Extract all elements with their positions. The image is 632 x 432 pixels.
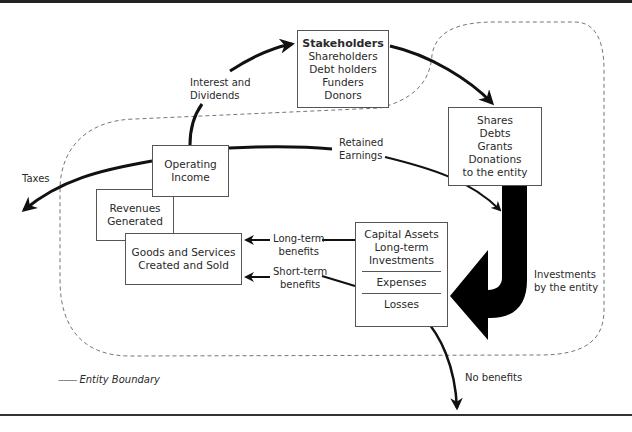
interest-arrow-lower [190, 104, 202, 145]
investments-label: Investments by the entity [534, 268, 598, 294]
inflow-item: Donations [449, 153, 541, 166]
inflow-item: Shares [449, 114, 541, 127]
interest-label: Interest and Dividends [190, 76, 251, 102]
losses-label: Losses [356, 298, 447, 311]
capital-assets-box: Capital Assets Long-term Investments Exp… [355, 222, 448, 327]
retained-line: Earnings [339, 149, 383, 162]
stakeholder-item: Shareholders [298, 50, 388, 63]
capital-line: Investments [356, 254, 447, 267]
goods-services-box: Goods and Services Created and Sold [125, 233, 242, 285]
divider [362, 271, 441, 272]
goods-line: Created and Sold [126, 259, 241, 272]
stakeholder-item: Debt holders [298, 63, 388, 76]
inflow-item: Debts [449, 127, 541, 140]
divider [362, 293, 441, 294]
interest-arrow-upper [230, 44, 292, 71]
long-term-label: Long-term benefits [273, 232, 325, 258]
retained-label: Retained Earnings [339, 136, 383, 162]
legend-text: Entity Boundary [79, 374, 160, 385]
long-term-line: benefits [273, 245, 325, 258]
retained-line: Retained [339, 136, 383, 149]
bottom-rule [0, 414, 632, 416]
stakeholder-item: Donors [298, 89, 388, 102]
investments-line: by the entity [534, 281, 598, 294]
inflow-item: to the entity [449, 166, 541, 179]
operating-income-line: Income [153, 171, 228, 184]
long-term-line: Long-term [273, 232, 325, 245]
legend-dash-icon: ------- [58, 374, 76, 385]
inflow-item: Grants [449, 140, 541, 153]
stakeholders-to-shares-arrow [390, 46, 492, 103]
legend: ------- Entity Boundary [58, 373, 160, 386]
capital-line: Long-term [356, 241, 447, 254]
no-benefits-arrow [424, 318, 457, 408]
taxes-label: Taxes [22, 172, 50, 185]
interest-line: Interest and [190, 76, 251, 89]
inflows-box: Shares Debts Grants Donations to the ent… [448, 107, 542, 186]
operating-income-line: Operating [153, 158, 228, 171]
stakeholders-box: Stakeholders Shareholders Debt holders F… [297, 30, 389, 108]
investments-line: Investments [534, 268, 598, 281]
interest-line: Dividends [190, 89, 251, 102]
short-term-label: Short-term benefits [273, 265, 327, 291]
revenues-line: Revenues [97, 202, 173, 215]
capital-line: Capital Assets [356, 228, 447, 241]
goods-line: Goods and Services [126, 246, 241, 259]
top-rule [0, 0, 632, 3]
expenses-label: Expenses [356, 276, 447, 289]
short-term-line: Short-term [273, 265, 327, 278]
stakeholders-heading: Stakeholders [298, 37, 388, 50]
short-term-line: benefits [273, 278, 327, 291]
no-benefits-label: No benefits [465, 371, 522, 384]
stakeholder-item: Funders [298, 76, 388, 89]
operating-income-box: Operating Income [152, 145, 229, 197]
revenues-line: Generated [97, 215, 173, 228]
investments-big-arrow [450, 185, 527, 340]
retained-earnings-line [229, 147, 332, 149]
